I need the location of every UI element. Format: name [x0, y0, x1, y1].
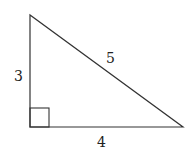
right-triangle — [30, 15, 183, 127]
label-hypotenuse: 5 — [106, 50, 115, 66]
triangle-diagram: 3 5 4 — [0, 0, 192, 160]
right-angle-marker — [30, 108, 49, 127]
label-vertical-side: 3 — [14, 68, 23, 84]
label-horizontal-side: 4 — [97, 134, 106, 150]
